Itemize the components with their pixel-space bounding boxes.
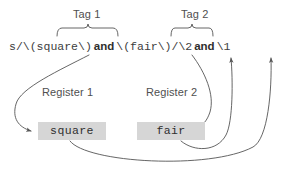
regex-register-diagram: Tag 1 Tag 2 Register 1 Register 2 s/\(sq… [0,0,301,170]
register1-label: Register 1 [42,86,93,98]
sed-part-and-1: and [92,40,116,52]
tag2-label: Tag 2 [181,8,208,20]
sed-part-backref-1: \1 [217,40,231,53]
sed-part-pattern-tag2: \(fair\)/\2 [116,40,192,53]
diagram-vector-layer [0,0,301,170]
tag1-label: Tag 1 [73,8,100,20]
register2-value-box: fair [137,122,205,140]
register2-label: Register 2 [146,86,197,98]
tag2-brace [171,24,213,36]
sed-part-and-2: and [192,40,216,52]
tag1-brace [57,24,118,36]
arrow-register1-to-backref1 [70,58,271,161]
sed-expression-line: s/\(square\)and\(fair\)/\2and\1 [9,40,230,53]
register1-value-box: square [38,122,106,140]
sed-part-pattern-tag1: s/\(square\) [9,40,92,53]
